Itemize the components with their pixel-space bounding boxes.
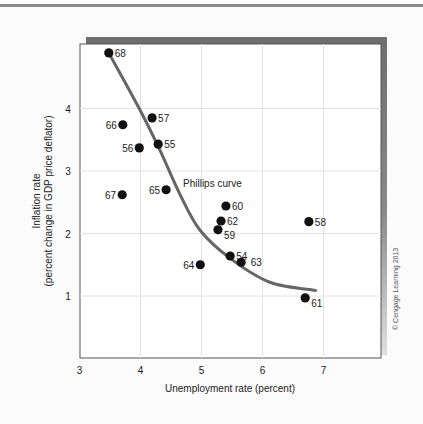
y-axis-title-line1: Inflation rate bbox=[31, 173, 42, 228]
data-point-label: 63 bbox=[251, 257, 263, 268]
data-point-66: 66 bbox=[106, 120, 128, 131]
data-point-58: 58 bbox=[304, 217, 326, 228]
x-tick-label: 4 bbox=[138, 365, 144, 376]
data-point-label: 66 bbox=[106, 120, 118, 131]
phillips-curve-chart: 345671234 545556575859606162636465666768… bbox=[0, 0, 423, 424]
data-point-label: 68 bbox=[115, 48, 127, 59]
data-point-64: 64 bbox=[183, 260, 205, 271]
data-point-label: 67 bbox=[105, 190, 117, 201]
data-point-60: 60 bbox=[221, 201, 243, 212]
plot-area bbox=[80, 44, 381, 358]
data-point-label: 58 bbox=[315, 217, 327, 228]
data-point-55: 55 bbox=[154, 139, 176, 150]
x-tick-label: 5 bbox=[199, 365, 205, 376]
data-point-56: 56 bbox=[122, 143, 144, 154]
x-tick-label: 3 bbox=[77, 365, 83, 376]
data-point-label: 62 bbox=[227, 216, 239, 227]
data-point-label: 56 bbox=[122, 143, 134, 154]
copyright-credit: © Cengage Learning 2013 bbox=[392, 248, 400, 330]
data-point-label: 57 bbox=[158, 113, 170, 124]
data-point-65: 65 bbox=[149, 185, 171, 196]
data-point-label: 59 bbox=[224, 230, 236, 241]
data-point-67: 67 bbox=[105, 190, 127, 201]
data-point-label: 65 bbox=[149, 185, 161, 196]
y-tick-label: 1 bbox=[65, 291, 71, 302]
y-tick-label: 4 bbox=[65, 104, 71, 115]
phillips-curve-label: Phillips curve bbox=[183, 178, 242, 189]
data-point-label: 61 bbox=[311, 298, 323, 309]
data-point-57: 57 bbox=[147, 113, 169, 124]
data-point-label: 60 bbox=[232, 201, 244, 212]
x-axis-title: Unemployment rate (percent) bbox=[165, 383, 295, 394]
y-axis-title-line2: (percent change in GDP price deflator) bbox=[43, 115, 54, 286]
y-tick-label: 3 bbox=[65, 166, 71, 177]
data-point-label: 64 bbox=[183, 260, 195, 271]
x-tick-label: 6 bbox=[260, 365, 266, 376]
x-tick-label: 7 bbox=[321, 365, 327, 376]
data-point-68: 68 bbox=[104, 48, 126, 59]
data-point-62: 62 bbox=[216, 216, 238, 227]
y-tick-label: 2 bbox=[65, 229, 71, 240]
data-point-label: 55 bbox=[164, 139, 176, 150]
